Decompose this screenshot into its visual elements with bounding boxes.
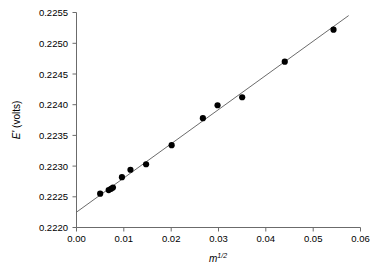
linear-fit-line: [77, 16, 349, 213]
data-point: [330, 27, 336, 33]
y-axis-unit: (volts): [11, 101, 22, 128]
x-tick-label: 0.04: [257, 233, 276, 244]
x-tick-label: 0.06: [351, 233, 370, 244]
data-point: [97, 191, 103, 197]
data-point: [119, 174, 125, 180]
figure-caption: [0, 273, 382, 277]
figure-container: 0.2220 0.2225 0.2230 0.2235 0.2240 0.224…: [0, 0, 382, 277]
svg-text:E' (volts): E' (volts): [11, 101, 22, 140]
x-tick-label: 0.02: [162, 233, 181, 244]
y-tick-marks: [73, 13, 77, 228]
data-point: [239, 94, 245, 100]
x-axis-title: m1/2: [209, 252, 227, 264]
x-tick-label: 0.00: [67, 233, 86, 244]
x-tick-label: 0.03: [209, 233, 228, 244]
x-axis-exponent: 1/2: [217, 252, 227, 259]
x-tick-marks: [77, 228, 361, 232]
data-point: [214, 102, 220, 108]
data-point: [127, 167, 133, 173]
x-tick-label: 0.05: [304, 233, 323, 244]
svg-text:m1/2: m1/2: [209, 252, 227, 264]
y-tick-label: 0.2250: [39, 38, 68, 49]
y-axis-title: E' (volts): [11, 101, 22, 140]
y-tick-label: 0.2240: [39, 99, 68, 110]
x-axis-symbol: m: [209, 253, 217, 264]
scatter-plot: 0.2220 0.2225 0.2230 0.2235 0.2240 0.224…: [0, 0, 382, 277]
y-tick-label: 0.2235: [39, 130, 68, 141]
x-tick-label: 0.01: [115, 233, 134, 244]
data-points-group: [97, 27, 337, 197]
data-point: [143, 161, 149, 167]
y-tick-label: 0.2245: [39, 69, 68, 80]
x-tick-labels: 0.00 0.01 0.02 0.03 0.04 0.05 0.06: [67, 233, 370, 244]
data-point: [200, 115, 206, 121]
data-point: [110, 184, 116, 190]
y-tick-labels: 0.2220 0.2225 0.2230 0.2235 0.2240 0.224…: [39, 7, 68, 233]
y-tick-label: 0.2230: [39, 161, 68, 172]
y-tick-label: 0.2225: [39, 191, 68, 202]
data-point: [169, 142, 175, 148]
y-tick-label: 0.2255: [39, 7, 68, 18]
data-point: [282, 59, 288, 65]
y-tick-label: 0.2220: [39, 222, 68, 233]
